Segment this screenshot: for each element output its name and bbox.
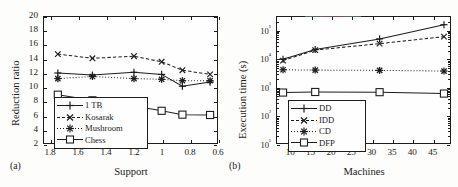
x-tick xyxy=(413,140,414,143)
chart-panel-b: Execution time (s) 1015202530354045 10¹1… xyxy=(229,0,458,187)
legend-label-dd: DD xyxy=(317,104,331,113)
y-minor-tick-right xyxy=(448,79,450,80)
y-tick-label: 10² xyxy=(229,109,271,122)
legend-key-asterisk-dotted-icon xyxy=(291,126,317,137)
y-minor-tick-right xyxy=(448,32,450,33)
x-tick xyxy=(373,140,374,143)
legend-item: Kosarak xyxy=(57,111,144,122)
scan-artifact xyxy=(323,16,345,17)
legend-key-cross-dashed-icon xyxy=(57,112,83,123)
y-minor-tick xyxy=(277,46,279,47)
legend-key-plus-solid-icon xyxy=(57,100,83,111)
y-minor-tick-right xyxy=(448,123,450,124)
y-tick-right xyxy=(214,131,217,132)
y-minor-tick xyxy=(277,89,279,90)
x-tick-top xyxy=(393,17,394,20)
x-tick xyxy=(219,140,220,143)
y-tick-right xyxy=(214,145,217,146)
y-minor-tick-right xyxy=(448,94,450,95)
y-tick-right xyxy=(214,117,217,118)
y-minor-tick-right xyxy=(448,136,450,137)
y-minor-tick xyxy=(277,91,279,92)
y-minor-tick-right xyxy=(448,22,450,23)
x-tick xyxy=(393,140,394,143)
y-tick xyxy=(44,102,47,103)
y-minor-tick-right xyxy=(448,92,450,93)
legend-label-dfp: DFP xyxy=(317,139,335,148)
y-minor-tick xyxy=(277,32,279,33)
y-minor-tick xyxy=(277,79,279,80)
y-minor-tick xyxy=(277,71,279,72)
legend-item: 1 TB xyxy=(57,100,144,111)
y-minor-tick-right xyxy=(448,39,450,40)
y-tick-right xyxy=(214,45,217,46)
y-tick-label: 4 xyxy=(0,125,38,134)
x-tick-label: 1 xyxy=(160,148,165,157)
chart-b-x-axis-title: Machines xyxy=(343,166,384,177)
y-minor-tick xyxy=(277,103,279,104)
x-tick-label: 1.6 xyxy=(72,148,83,157)
x-tick-top xyxy=(79,17,80,20)
y-minor-tick-right xyxy=(448,74,450,75)
y-minor-tick xyxy=(277,62,279,63)
legend-label-kosarak: Kosarak xyxy=(83,113,114,122)
y-minor-tick xyxy=(277,131,279,132)
x-tick-top xyxy=(291,17,292,20)
y-tick xyxy=(44,31,47,32)
y-minor-tick xyxy=(277,33,279,34)
y-minor-tick xyxy=(277,64,279,65)
legend-item: IDD xyxy=(291,114,362,125)
legend-key-cross-dashed-icon xyxy=(291,115,317,126)
x-tick-top xyxy=(312,17,313,20)
y-minor-tick-right xyxy=(448,103,450,104)
y-minor-tick xyxy=(277,125,279,126)
legend-item: DFP xyxy=(291,137,362,148)
y-tick xyxy=(44,60,47,61)
x-tick-label: 45 xyxy=(428,148,437,157)
y-minor-tick xyxy=(277,123,279,124)
y-minor-tick xyxy=(277,74,279,75)
y-tick-label: 16 xyxy=(0,40,38,49)
legend-key-plus-solid-icon xyxy=(291,103,317,114)
y-minor-tick xyxy=(277,121,279,122)
chart-b-lines xyxy=(283,25,444,94)
y-minor-tick xyxy=(277,42,279,43)
x-tick xyxy=(434,140,435,143)
y-minor-tick-right xyxy=(448,131,450,132)
x-tick-label: 1.2 xyxy=(128,148,139,157)
legend-label-idd: IDD xyxy=(317,116,334,125)
x-tick-top xyxy=(219,17,220,20)
y-tick xyxy=(44,17,47,18)
y-tick-label: 10⁴ xyxy=(229,52,271,65)
y-tick xyxy=(277,145,280,146)
x-tick-label: 35 xyxy=(387,148,396,157)
y-tick-label: 6 xyxy=(0,111,38,120)
y-minor-tick xyxy=(277,99,279,100)
scan-artifact xyxy=(345,16,361,17)
y-tick-label: 8 xyxy=(0,97,38,106)
y-minor-tick-right xyxy=(448,35,450,36)
x-tick-top xyxy=(332,17,333,20)
chart-a-legend: 1 TB Kosarak xyxy=(54,97,148,149)
y-minor-tick xyxy=(277,96,279,97)
chart-b-y-axis-title: Execution time (s) xyxy=(237,61,248,139)
x-tick-top xyxy=(163,17,164,20)
y-tick-label: 10³ xyxy=(229,80,271,93)
y-minor-tick xyxy=(277,39,279,40)
y-minor-tick-right xyxy=(448,118,450,119)
y-minor-tick xyxy=(277,108,279,109)
y-minor-tick-right xyxy=(448,51,450,52)
y-minor-tick xyxy=(277,94,279,95)
y-tick xyxy=(44,45,47,46)
legend-item: Mushroom xyxy=(57,123,144,134)
y-minor-tick-right xyxy=(448,96,450,97)
y-minor-tick-right xyxy=(448,68,450,69)
x-tick-top xyxy=(191,17,192,20)
y-tick-right xyxy=(214,102,217,103)
legend-key-square-solid-icon xyxy=(57,134,83,145)
y-minor-tick xyxy=(277,136,279,137)
x-tick xyxy=(163,140,164,143)
y-tick xyxy=(44,117,47,118)
y-tick-label: 10 xyxy=(0,83,38,92)
y-minor-tick-right xyxy=(448,119,450,120)
